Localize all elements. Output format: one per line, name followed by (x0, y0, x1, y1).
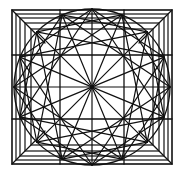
corner-diagonal (12, 131, 45, 164)
corner-diagonal (12, 10, 45, 43)
corner-diagonal (139, 131, 172, 164)
geometric-diagram (0, 0, 177, 176)
corner-diagonal (139, 10, 172, 43)
star-pattern-figure (0, 0, 177, 176)
radial-spokes (14, 9, 170, 165)
